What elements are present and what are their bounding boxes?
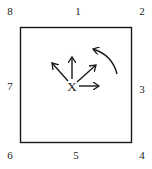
neighbor-label-5: 5: [70, 149, 82, 161]
center-x-label: X: [67, 80, 77, 93]
neighbor-label-6: 6: [4, 149, 16, 161]
arrow-up-right-icon: [77, 65, 96, 82]
direction-diagram: X 1 2 3 4 5 6 7 8: [0, 0, 152, 169]
neighbor-label-1: 1: [72, 5, 84, 17]
neighbor-label-4: 4: [136, 149, 148, 161]
neighbor-label-2: 2: [136, 5, 148, 17]
curved-rotation-arrow-icon: [93, 49, 117, 74]
neighbor-label-3: 3: [136, 83, 148, 95]
arrow-up-left-icon: [52, 63, 68, 81]
neighbor-label-7: 7: [4, 80, 16, 92]
neighbor-label-8: 8: [4, 5, 16, 17]
